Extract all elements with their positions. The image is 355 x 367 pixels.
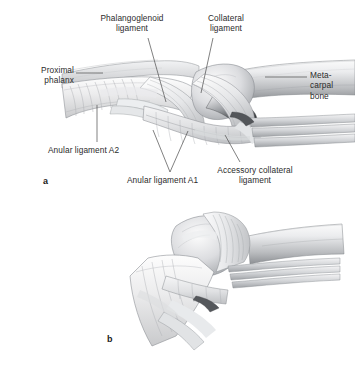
label-phalangoglenoid-ligament: Phalangoglenoid ligament (86, 13, 178, 34)
leader-anular-a1-left (153, 130, 170, 172)
panel-letter-b: b (107, 334, 113, 344)
panel-letter-a: a (43, 176, 48, 186)
leader-anular-a1-right (170, 131, 188, 172)
label-metacarpal-bone: Meta- carpal bone (310, 70, 354, 101)
label-anular-ligament-a2: Anular ligament A2 (48, 145, 148, 155)
label-collateral-ligament: Collateral ligament (188, 13, 264, 34)
flexor-tendon-group-b (228, 258, 340, 288)
anatomy-figure: Phalangoglenoid ligament Collateral liga… (0, 0, 355, 367)
flexor-tendon-group (250, 114, 355, 147)
label-proximal-phalanx: Proximal phalanx (12, 65, 74, 86)
label-accessory-collateral-ligament: Accessory collateral ligament (203, 165, 307, 186)
panel-b-illustration (130, 212, 344, 350)
metacarpal-shaft-b (248, 224, 344, 264)
